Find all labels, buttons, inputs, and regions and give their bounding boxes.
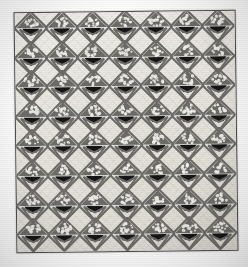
basket-block (110, 217, 144, 251)
basket-motif-grid (15, 11, 238, 253)
basket-block (78, 217, 112, 251)
basket-block (172, 216, 206, 250)
basket-block (16, 218, 50, 252)
basket-block (203, 216, 237, 250)
basket-block (47, 218, 81, 252)
basket-block (141, 217, 175, 251)
quilt-body (14, 10, 239, 254)
quilt-object (14, 10, 239, 254)
quilt-photograph: Basket Quilt (0, 0, 248, 267)
